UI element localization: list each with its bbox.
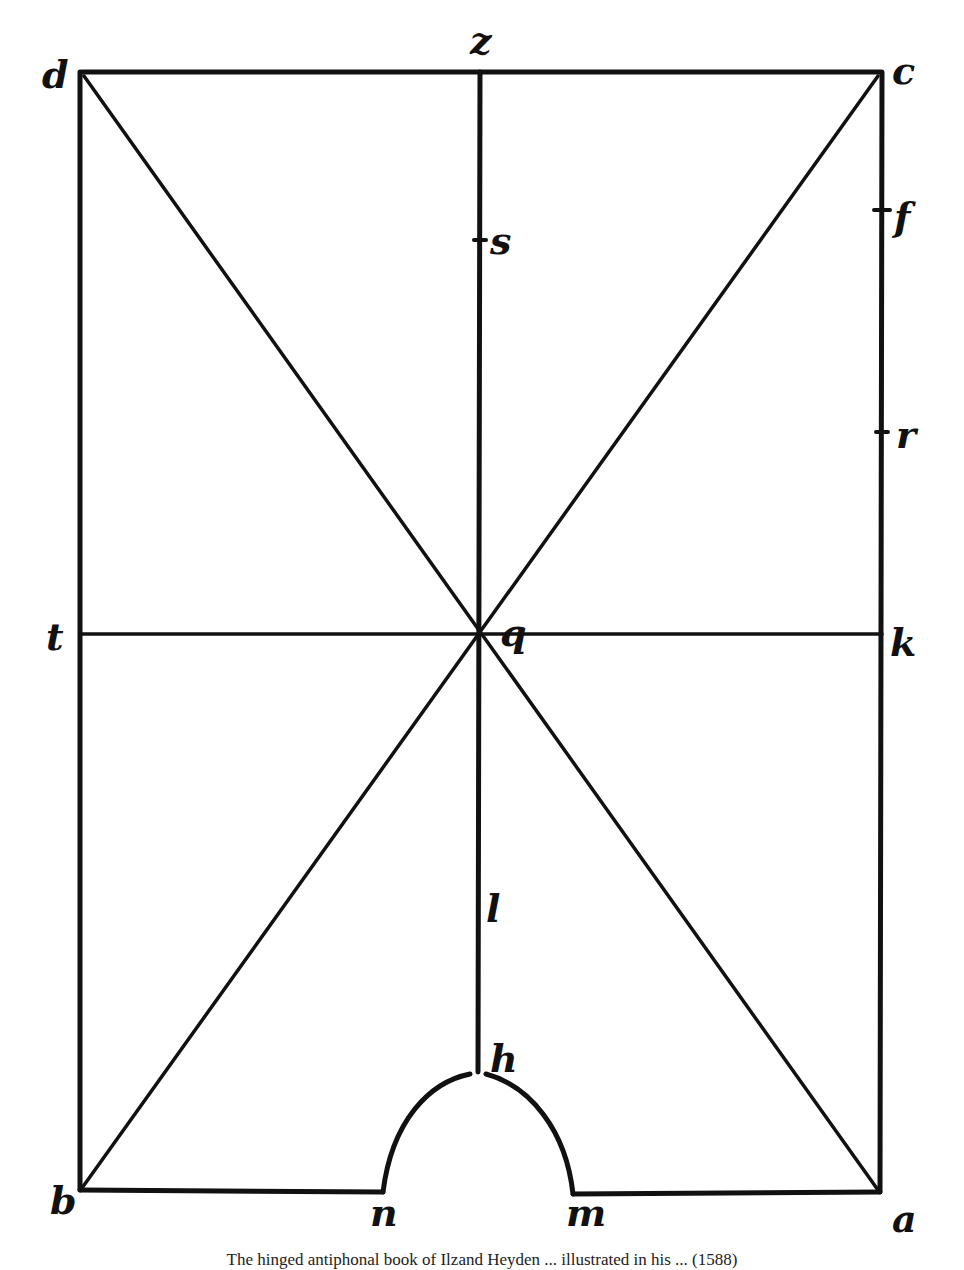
label-n: n [370, 1190, 398, 1235]
label-l: l [486, 886, 500, 931]
label-m: m [566, 1190, 606, 1235]
label-k: k [890, 620, 916, 665]
arch-nhm [383, 1074, 573, 1194]
label-c: c [892, 48, 915, 93]
bottom-edge-bn [80, 1190, 383, 1192]
label-h: h [490, 1036, 518, 1081]
label-t: t [46, 614, 64, 659]
label-s: s [489, 218, 511, 263]
label-b: b [50, 1178, 77, 1223]
label-q: q [500, 610, 527, 655]
label-r: r [896, 412, 919, 457]
label-z: z [469, 18, 493, 63]
label-f: f [891, 194, 916, 239]
label-d: d [42, 52, 69, 97]
right-edge-ca [880, 72, 882, 1192]
bottom-edge-ma [573, 1192, 880, 1194]
label-a: a [892, 1196, 917, 1241]
figure-caption: The hinged antiphonal book of Ilzand Hey… [0, 1250, 964, 1270]
vertical-axis-zh [478, 72, 480, 1072]
